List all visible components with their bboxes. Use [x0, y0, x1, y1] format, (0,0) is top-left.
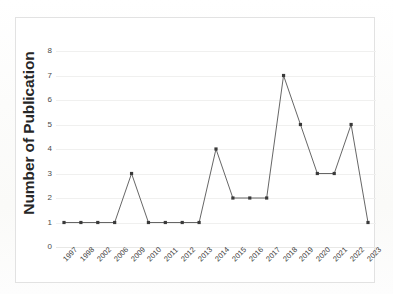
line-series [56, 26, 376, 256]
data-point-2002 [96, 221, 99, 224]
y-tick-label-2: 2 [26, 194, 52, 202]
data-point-1998 [79, 221, 82, 224]
data-point-2015 [231, 196, 234, 199]
y-tick-label-0: 0 [26, 243, 52, 251]
data-point-2017 [265, 196, 268, 199]
y-tick-label-7: 7 [26, 72, 52, 80]
data-point-2010 [147, 221, 150, 224]
y-tick-label-1: 1 [26, 219, 52, 227]
y-tick-label-8: 8 [26, 47, 52, 55]
data-point-2014 [214, 147, 217, 150]
chart-frame: Number of Publication 012345678 19971998… [15, 17, 375, 283]
data-point-2019 [299, 123, 302, 126]
data-point-2020 [316, 172, 319, 175]
data-point-2006 [113, 221, 116, 224]
data-point-2011 [164, 221, 167, 224]
y-tick-label-6: 6 [26, 96, 52, 104]
series-markers [62, 74, 369, 224]
x-axis-labels: 1997199820022006200920102011201220132014… [56, 257, 376, 294]
data-point-2023 [366, 221, 369, 224]
data-point-2009 [130, 172, 133, 175]
data-point-2012 [181, 221, 184, 224]
data-point-2021 [333, 172, 336, 175]
data-point-1997 [62, 221, 65, 224]
y-tick-label-3: 3 [26, 170, 52, 178]
plot-area: 012345678 [56, 26, 376, 256]
data-point-2013 [198, 221, 201, 224]
y-tick-label-5: 5 [26, 121, 52, 129]
data-point-2016 [248, 196, 251, 199]
data-point-2022 [350, 123, 353, 126]
y-tick-label-4: 4 [26, 145, 52, 153]
data-point-2018 [282, 74, 285, 77]
